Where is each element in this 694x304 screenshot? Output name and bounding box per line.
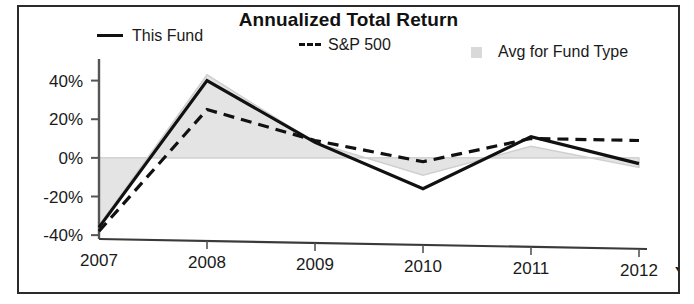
plot-area: 40%20%0%-20%-40% 20072008200920102011201… <box>19 7 680 294</box>
y-tick-label: -40% <box>43 226 83 245</box>
x-tick-label: 2012 <box>620 261 658 280</box>
x-tick-label: 2010 <box>404 257 442 276</box>
chart-svg: 40%20%0%-20%-40% 20072008200920102011201… <box>19 7 680 294</box>
chart-card: Annualized Total Return This Fund S&P 50… <box>17 5 680 294</box>
y-axis-labels: 40%20%0%-20%-40% <box>43 72 83 246</box>
y-tick-label: -20% <box>43 188 83 207</box>
x-tick-label: 2007 <box>80 251 118 270</box>
x-axis-ytd-label: YTD <box>675 263 680 280</box>
axis-ticks <box>91 81 639 257</box>
x-axis-line <box>99 239 647 249</box>
x-tick-label: 2011 <box>513 259 550 278</box>
y-tick-label: 40% <box>49 72 83 91</box>
x-axis-labels: 200720082009201020112012YTD <box>80 251 680 280</box>
y-tick-label: 20% <box>49 110 83 129</box>
y-tick-label: 0% <box>58 149 83 168</box>
x-tick-label: 2009 <box>296 255 334 274</box>
x-tick-label: 2008 <box>188 253 226 272</box>
